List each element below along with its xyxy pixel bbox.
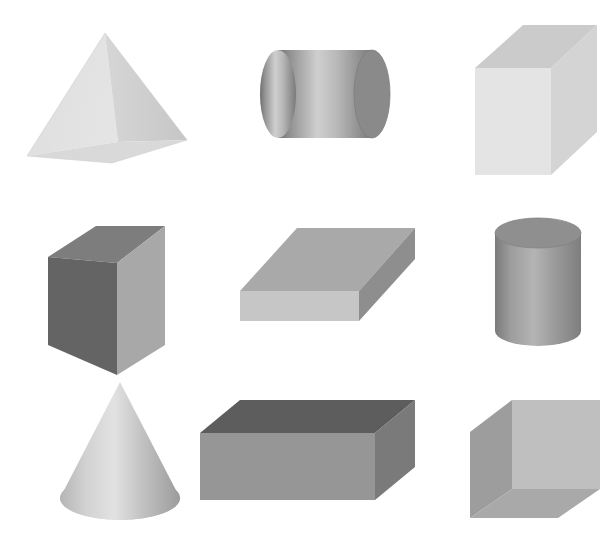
shapes-canvas: Square Pyramid Horizontal Cylinder Light… bbox=[0, 0, 616, 549]
light-cube-front-face bbox=[475, 68, 551, 175]
corner-cube-front-face bbox=[512, 400, 600, 489]
vertical-cylinder-bottom-edge bbox=[495, 316, 581, 346]
shape-vertical-cylinder: Vertical Cylinder bbox=[495, 218, 581, 346]
slab-front-face bbox=[240, 291, 359, 321]
shape-horizontal-cylinder: Horizontal Cylinder bbox=[260, 50, 390, 138]
horizontal-cylinder-left-edge bbox=[260, 50, 296, 138]
box-front-face bbox=[200, 433, 375, 500]
shape-rectangular-box: Rectangular Box bbox=[200, 400, 415, 500]
geometric-solids-illustration: Square Pyramid Horizontal Cylinder Light… bbox=[0, 0, 616, 549]
shape-corner-cube: Corner Cube bbox=[470, 400, 600, 518]
